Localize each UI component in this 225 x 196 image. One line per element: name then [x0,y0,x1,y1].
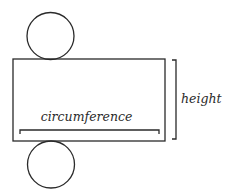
bottom-circle [28,141,75,188]
circumference-bracket [20,130,159,134]
circumference-label: circumference [41,109,133,124]
top-circle [27,13,74,60]
cylinder-net-diagram: circumference height [0,0,225,196]
height-label: height [181,91,222,106]
height-bracket [172,60,176,139]
lateral-rectangle [13,59,165,141]
